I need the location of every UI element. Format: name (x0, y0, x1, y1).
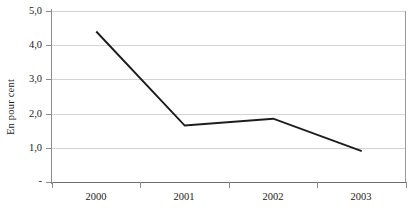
gridline-3 (52, 79, 406, 80)
gridline-1 (52, 148, 406, 149)
plot-area (52, 11, 406, 182)
y-tick-mark-2 (46, 114, 52, 115)
x-tick-mark-1 (140, 182, 141, 188)
y-tick-label-2: 2,0 (2, 109, 42, 119)
y-tick-mark-5 (46, 11, 52, 12)
x-tick-mark-0 (52, 182, 53, 188)
x-tick-mark-3 (317, 182, 318, 188)
y-tick-label-5: 5,0 (2, 6, 42, 16)
x-tick-label-2000: 2000 (66, 191, 126, 203)
line-chart: En pour cent 5,0 4,0 3,0 2,0 1,0 - 2000 … (0, 0, 416, 214)
plot-right-border (405, 11, 406, 182)
y-tick-label-3: 3,0 (2, 74, 42, 84)
y-tick-mark-4 (46, 45, 52, 46)
gridline-4 (52, 45, 406, 46)
y-tick-label-1: 1,0 (2, 143, 42, 153)
y-tick-mark-1 (46, 148, 52, 149)
x-tick-mark-2 (229, 182, 230, 188)
x-tick-mark-4 (406, 182, 407, 188)
y-tick-mark-3 (46, 79, 52, 80)
y-tick-label-4: 4,0 (2, 40, 42, 50)
x-tick-label-2003: 2003 (331, 191, 391, 203)
x-tick-label-2001: 2001 (154, 191, 214, 203)
x-tick-label-2002: 2002 (243, 191, 303, 203)
gridline-5 (52, 11, 406, 12)
y-axis-line (51, 9, 52, 184)
gridline-2 (52, 114, 406, 115)
y-tick-label-0: - (2, 176, 42, 186)
